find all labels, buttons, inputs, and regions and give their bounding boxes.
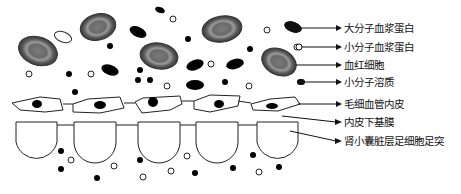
hollow-oval xyxy=(53,29,73,45)
label-small-solute: 小分子溶质 xyxy=(344,76,394,88)
label-red-blood-cell: 血红细胞 xyxy=(344,59,384,71)
label-small-plasma-protein: 小分子血浆蛋白 xyxy=(344,41,414,53)
label-basement-membrane: 内皮下基膜 xyxy=(344,116,394,128)
label-capillary-endothelium: 毛细血管内皮 xyxy=(344,98,404,110)
label-podocyte-foot-process: 肾小囊脏层足细胞足突 xyxy=(344,135,444,147)
label-large-plasma-protein: 大分子血浆蛋白 xyxy=(344,22,414,34)
podocyte-foot-processes xyxy=(16,122,298,163)
red-blood-cells xyxy=(14,10,300,82)
